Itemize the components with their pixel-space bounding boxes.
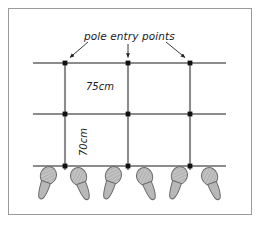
footprint-3-icon [97, 164, 124, 201]
arrow-to-left-entry [70, 42, 88, 58]
entry-marker [188, 112, 193, 117]
footprint-5-icon [163, 164, 190, 201]
footprint-6-icon [199, 165, 226, 202]
vertical-spacing-label: 70cm [78, 128, 89, 156]
arrow-to-right-entry [166, 42, 185, 58]
footprint-1-icon [32, 164, 59, 201]
entry-marker [188, 164, 193, 169]
callout-arrows [70, 42, 185, 58]
entry-marker [126, 164, 131, 169]
pole-entry-points-label: pole entry points [84, 30, 175, 42]
entry-marker [126, 61, 131, 66]
pole-grid-figure: pole entry points 75cm 70cm [0, 0, 262, 225]
horizontal-spacing-label: 75cm [86, 81, 114, 92]
footprint-2-icon [68, 165, 95, 202]
footprint-4-icon [134, 165, 161, 202]
entry-marker [126, 112, 131, 117]
entry-marker [63, 164, 68, 169]
entry-marker [188, 61, 193, 66]
entry-marker [63, 61, 68, 66]
entry-marker [63, 112, 68, 117]
